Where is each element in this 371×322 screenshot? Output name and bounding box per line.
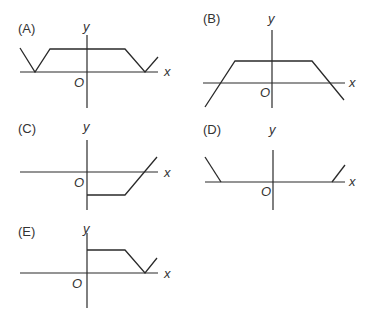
graph-c-x-label: x <box>164 166 171 179</box>
graph-c-y-label: y <box>83 120 90 133</box>
graph-e-y-label: y <box>83 222 90 235</box>
graph-d-origin-label: O <box>261 185 271 198</box>
graph-b <box>203 30 345 108</box>
graph-b-y-label: y <box>268 12 275 25</box>
graph-e-label: (E) <box>18 225 35 238</box>
graph-e <box>20 233 158 308</box>
graph-b-origin-label: O <box>260 86 270 99</box>
graph-a <box>20 35 158 108</box>
graph-c-origin-label: O <box>74 176 84 189</box>
graphs-canvas <box>0 0 371 322</box>
graph-b-label: (B) <box>203 12 220 25</box>
graph-a-origin-label: O <box>74 76 84 89</box>
graph-d-curve-right <box>332 165 345 182</box>
graph-b-x-label: x <box>349 76 356 89</box>
graph-e-x-label: x <box>164 267 171 280</box>
graph-c <box>20 140 158 210</box>
graph-d-y-label: y <box>269 123 276 136</box>
graph-d-label: (D) <box>203 123 221 136</box>
graph-a-y-label: y <box>83 20 90 33</box>
graph-d <box>205 150 345 210</box>
graph-d-x-label: x <box>349 175 356 188</box>
graph-c-curve <box>87 157 157 195</box>
graph-a-label: (A) <box>18 22 35 35</box>
graph-d-curve-left <box>205 157 221 182</box>
graph-a-x-label: x <box>164 65 171 78</box>
graph-e-curve <box>87 250 157 273</box>
graph-e-origin-label: O <box>72 277 82 290</box>
graph-b-curve <box>205 61 344 107</box>
graph-a-curve <box>20 48 158 72</box>
graph-c-label: (C) <box>18 122 36 135</box>
